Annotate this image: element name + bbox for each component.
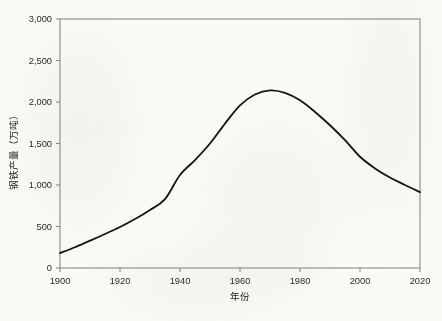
x-tick-label: 1920 [110,276,131,286]
x-tick-label: 2000 [350,276,371,286]
chart-container: 05001,0001,5002,0002,5003,000 1900192019… [0,0,442,321]
y-tick-label: 0 [47,263,52,273]
x-axis: 1900192019401960198020002020 [50,268,431,286]
x-tick-label: 1900 [50,276,71,286]
y-tick-label: 500 [36,222,52,232]
x-tick-label: 1980 [290,276,311,286]
y-axis-title: 钢铁产量（万吨） [8,110,19,190]
y-tick-label: 2,500 [29,56,52,66]
y-tick-label: 1,000 [29,180,52,190]
y-tick-label: 1,500 [29,139,52,149]
x-axis-title: 年份 [230,291,250,302]
x-tick-label: 1940 [170,276,191,286]
data-series-line [60,90,420,253]
y-tick-label: 3,000 [29,14,52,24]
y-axis: 05001,0001,5002,0002,5003,000 [29,14,60,273]
line-chart: 05001,0001,5002,0002,5003,000 1900192019… [0,0,442,321]
x-tick-label: 2020 [410,276,431,286]
y-tick-label: 2,000 [29,97,52,107]
x-tick-label: 1960 [230,276,251,286]
